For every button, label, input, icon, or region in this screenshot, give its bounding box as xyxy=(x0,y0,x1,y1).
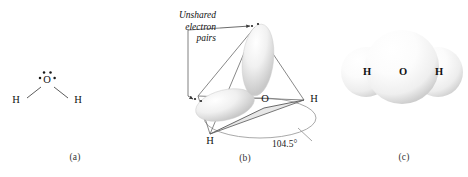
sphere-label-hydrogen-left: H xyxy=(360,67,374,78)
lone-pair-dot-top-a xyxy=(251,25,253,27)
panel-c-caption: (c) xyxy=(340,152,468,162)
annotation-line-1: Unshared xyxy=(179,10,216,20)
lone-pair-dot-top-b xyxy=(257,23,259,25)
sphere-label-hydrogen-right: H xyxy=(432,67,446,78)
electron-lobe-top xyxy=(239,23,277,98)
annotation-arrow-left-lobe xyxy=(188,96,193,99)
annotation-line-3: pairs xyxy=(196,33,216,43)
atom-label-hydrogen-right: H xyxy=(307,94,321,105)
sphere-label-oxygen: O xyxy=(396,67,410,78)
annotation-unshared-pairs: Unshared electron pairs xyxy=(152,10,216,45)
water-molecule-figure: O H H (a) xyxy=(0,0,468,177)
bond-line-left xyxy=(27,87,41,98)
annotation-arrow-top-lobe xyxy=(220,26,250,28)
atom-label-hydrogen-front: H xyxy=(203,136,217,147)
atom-label-hydrogen-right: H xyxy=(71,95,85,106)
panel-c-space-filling-model: H O H (c) xyxy=(340,0,468,177)
panel-a-lewis-structure: O H H (a) xyxy=(0,0,150,177)
panel-b-caption: (b) xyxy=(150,153,340,163)
annotation-line-2: electron xyxy=(185,22,216,32)
panel-b-tetrahedral-geometry: Unshared electron pairs O H H 104.5° (b) xyxy=(150,0,340,177)
atom-label-oxygen: O xyxy=(40,75,54,86)
lewis-structure-drawing xyxy=(0,0,150,177)
atom-label-hydrogen-left: H xyxy=(9,95,23,106)
bond-angle-label: 104.5° xyxy=(272,139,297,149)
lone-pair-dot-left-b xyxy=(200,100,202,102)
panel-a-caption: (a) xyxy=(0,152,150,162)
lone-pair-dot-left-a xyxy=(194,98,196,100)
space-filling-drawing xyxy=(340,0,468,177)
atom-label-oxygen-center: O xyxy=(258,94,272,105)
bond-line-right xyxy=(54,87,68,98)
